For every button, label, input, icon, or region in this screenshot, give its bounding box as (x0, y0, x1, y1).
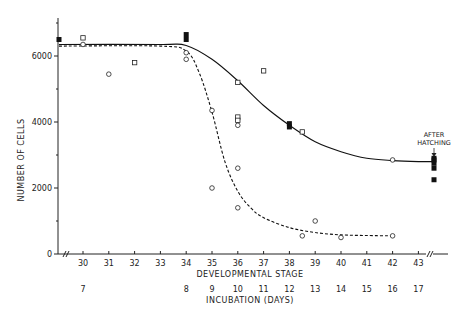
open-circle-marker (184, 57, 189, 62)
x-tick-label: 34 (181, 259, 191, 268)
x-tick-label: 42 (388, 259, 398, 268)
y-axis-title: NUMBER OF CELLS (17, 119, 26, 202)
x-tick-label: 31 (104, 259, 114, 268)
filled-square-marker (57, 37, 62, 42)
y-tick-label: 6000 (32, 52, 52, 61)
x-tick-label: 39 (310, 259, 320, 268)
incubation-day-label: 14 (336, 285, 346, 294)
x-tick-label: 30 (78, 259, 88, 268)
fit-curves (59, 44, 434, 236)
open-circle-marker (236, 206, 241, 211)
axes (54, 18, 448, 257)
annotation-line1: AFTER (424, 131, 445, 139)
open-circle-marker (184, 50, 189, 55)
x-axis-title: DEVELOPMENTAL STAGE (196, 270, 303, 279)
incubation-day-label: 16 (388, 285, 398, 294)
incubation-day-label: 8 (184, 285, 189, 294)
y-tick-label: 4000 (32, 118, 52, 127)
y-tick-label: 0 (47, 250, 52, 259)
incubation-day-label: 10 (233, 285, 243, 294)
open-circle-marker (390, 158, 395, 163)
incubation-day-label: 17 (413, 285, 423, 294)
filled-square-marker (432, 166, 437, 171)
incubation-day-label: 7 (80, 285, 85, 294)
filled-square-marker (432, 161, 437, 166)
open-circle-marker (313, 219, 318, 224)
axis-labels: 0200040006000303132333435363738394041424… (32, 52, 424, 294)
cell-count-chart: 0200040006000303132333435363738394041424… (0, 0, 465, 319)
x-tick-label: 43 (413, 259, 423, 268)
open-square-marker (261, 69, 265, 73)
open-square-marker (236, 80, 240, 84)
open-square-marker (236, 118, 240, 122)
incubation-day-label: 11 (259, 285, 269, 294)
x-tick-label: 33 (155, 259, 165, 268)
data-points (57, 32, 437, 240)
x-tick-label: 36 (233, 259, 243, 268)
x-tick-label: 40 (336, 259, 346, 268)
filled-square-marker (184, 32, 189, 37)
open-circle-marker (339, 235, 344, 240)
solid-fit-curve (59, 44, 434, 162)
filled-square-marker (432, 177, 437, 182)
open-circle-marker (236, 166, 241, 171)
open-circle-marker (81, 42, 86, 47)
open-square-marker (132, 60, 136, 64)
annotation-line2: HATCHING (417, 139, 451, 147)
open-circle-marker (236, 123, 241, 128)
after-hatching-annotation: AFTER HATCHING (417, 131, 451, 157)
incubation-day-label: 9 (209, 285, 214, 294)
open-circle-marker (210, 186, 215, 191)
x-tick-label: 37 (259, 259, 269, 268)
incubation-day-label: 15 (362, 285, 372, 294)
filled-square-marker (287, 124, 292, 129)
open-circle-marker (300, 234, 305, 239)
incubation-day-label: 12 (284, 285, 294, 294)
x-tick-label: 35 (207, 259, 217, 268)
filled-square-marker (184, 37, 189, 42)
y-tick-label: 2000 (32, 184, 52, 193)
axis-break-right-icon (427, 251, 433, 257)
open-circle-marker (390, 234, 395, 239)
x-tick-label: 32 (130, 259, 140, 268)
open-circle-marker (210, 108, 215, 113)
open-square-marker (300, 130, 304, 134)
incubation-day-label: 13 (310, 285, 320, 294)
open-square-marker (81, 36, 85, 40)
x2-axis-title: INCUBATION (DAYS) (206, 296, 294, 305)
x-tick-label: 38 (284, 259, 294, 268)
x-tick-label: 41 (362, 259, 372, 268)
open-circle-marker (107, 72, 112, 77)
